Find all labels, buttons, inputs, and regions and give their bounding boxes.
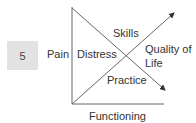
label-skills: Skills xyxy=(113,27,139,39)
label-functioning: Functioning xyxy=(89,110,146,122)
label-distress: Distress xyxy=(77,48,117,60)
diagram-lines xyxy=(0,0,196,123)
label-practice: Practice xyxy=(107,74,147,86)
label-life: Life xyxy=(145,57,163,69)
label-quality-of: Quality of xyxy=(145,43,191,55)
label-pain: Pain xyxy=(47,48,69,60)
